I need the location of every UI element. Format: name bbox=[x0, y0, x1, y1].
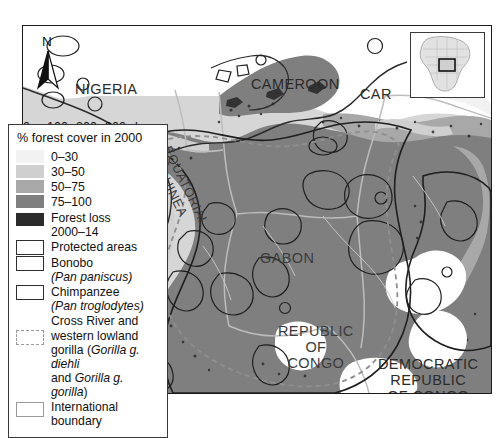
legend-swatch-forest-loss bbox=[16, 213, 44, 226]
legend-label-gorilla-line4a: and bbox=[51, 371, 75, 385]
legend-item-chimpanzee: Chimpanzee (Pan troglodytes) bbox=[16, 285, 162, 313]
legend-title: % forest cover in 2000 bbox=[17, 131, 162, 145]
legend-label-chimpanzee-scientific: (Pan troglodytes) bbox=[51, 299, 144, 313]
legend-label-gorilla-line1: Cross River and bbox=[51, 314, 138, 328]
legend-label-international-line2: boundary bbox=[51, 414, 102, 428]
legend-swatch-gorilla bbox=[16, 330, 44, 345]
legend-item-forest-0-30: 0–30 bbox=[16, 150, 162, 164]
legend-item-forest-75-100: 75–100 bbox=[16, 195, 162, 209]
legend-label-bonobo-scientific: (Pan paniscus) bbox=[51, 270, 132, 284]
africa-inset-map bbox=[410, 32, 485, 98]
legend-label-75-100: 75–100 bbox=[51, 195, 92, 209]
savanna-hole-drc2 bbox=[409, 310, 467, 367]
legend-label-protected-areas: Protected areas bbox=[51, 240, 137, 254]
legend-swatch-international-boundary bbox=[16, 402, 44, 417]
map-legend: % forest cover in 2000 0–30 30–50 50–75 … bbox=[8, 124, 168, 438]
north-arrow-label: N bbox=[42, 34, 52, 49]
legend-swatch-protected-areas bbox=[16, 240, 44, 255]
legend-label-forest-loss-line1: Forest loss bbox=[51, 211, 111, 225]
legend-swatch-75-100 bbox=[16, 195, 44, 208]
legend-swatch-30-50 bbox=[16, 165, 44, 178]
legend-swatch-50-75 bbox=[16, 180, 44, 193]
north-arrow: N bbox=[35, 34, 65, 90]
legend-label-bonobo: Bonobo bbox=[51, 256, 93, 270]
legend-label-chimpanzee: Chimpanzee bbox=[51, 285, 119, 299]
legend-label-gorilla-line4b: ) bbox=[84, 385, 88, 399]
legend-label-forest-loss-line2: 2000–14 bbox=[51, 225, 98, 239]
africa-outline-icon bbox=[411, 33, 482, 95]
legend-label-gorilla-line3a: gorilla ( bbox=[51, 343, 91, 357]
legend-label-30-50: 30–50 bbox=[51, 165, 85, 179]
legend-label-0-30: 0–30 bbox=[51, 150, 78, 164]
legend-item-forest-50-75: 50–75 bbox=[16, 180, 162, 194]
legend-item-bonobo: Bonobo (Pan paniscus) bbox=[16, 256, 162, 284]
legend-label-international-line1: International bbox=[51, 400, 118, 414]
legend-swatch-0-30 bbox=[16, 150, 44, 163]
legend-item-international-boundary: International boundary bbox=[16, 400, 162, 428]
legend-item-protected-areas: Protected areas bbox=[16, 240, 162, 255]
legend-item-gorilla: Cross River and western lowland gorilla … bbox=[16, 314, 162, 399]
legend-label-50-75: 50–75 bbox=[51, 180, 85, 194]
legend-item-forest-loss: Forest loss 2000–14 bbox=[16, 211, 162, 239]
legend-item-forest-30-50: 30–50 bbox=[16, 165, 162, 179]
legend-swatch-chimpanzee bbox=[16, 285, 44, 300]
legend-label-gorilla-line2: western lowland bbox=[51, 329, 138, 343]
legend-swatch-bonobo bbox=[16, 256, 44, 271]
north-arrow-icon bbox=[35, 50, 61, 90]
